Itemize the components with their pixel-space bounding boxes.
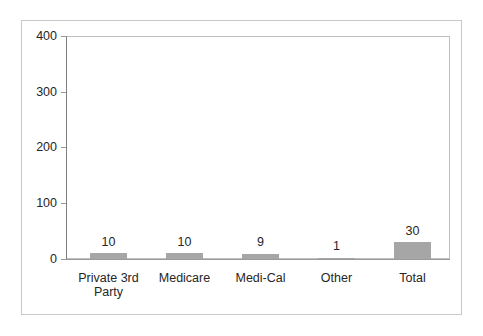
- bar-total: [394, 242, 431, 259]
- bar-value-label-medicare: 10: [159, 236, 210, 249]
- category-label-medicare: Medicare: [149, 272, 220, 286]
- bar-value-label-medi-cal: 9: [235, 236, 286, 249]
- y-tick-label-100: 100: [14, 197, 57, 210]
- bar-private-3rd-party: [90, 253, 127, 259]
- x-axis-baseline: [61, 259, 450, 260]
- category-label-total: Total: [377, 272, 448, 286]
- bar-other: [318, 258, 355, 259]
- y-tick-mark-200: [61, 147, 66, 148]
- category-label-other: Other: [301, 272, 372, 286]
- y-tick-mark-400: [61, 36, 66, 37]
- bar-medicare: [166, 253, 203, 259]
- y-tick-label-0: 0: [14, 253, 57, 266]
- bar-value-label-total: 30: [387, 225, 438, 238]
- category-label-private-3rd-party: Private 3rd Party: [73, 272, 144, 299]
- bar-value-label-other: 1: [311, 240, 362, 253]
- category-label-medi-cal: Medi-Cal: [225, 272, 296, 286]
- y-tick-mark-0: [61, 259, 66, 260]
- bar-chart-figure: 400 300 200 100 0 10 10 9 1 30 Private 3…: [0, 0, 483, 336]
- y-axis-line: [66, 36, 67, 260]
- y-tick-label-400: 400: [14, 30, 57, 43]
- bar-medi-cal: [242, 254, 279, 259]
- y-tick-label-300: 300: [14, 86, 57, 99]
- y-tick-mark-300: [61, 92, 66, 93]
- y-tick-mark-100: [61, 203, 66, 204]
- y-tick-label-200: 200: [14, 141, 57, 154]
- bar-value-label-private-3rd-party: 10: [83, 236, 134, 249]
